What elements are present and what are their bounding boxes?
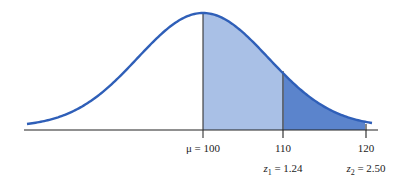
tick-label-110: 110 [275,142,291,154]
z1-label: z1 = 1.24 [263,162,302,177]
z2-value: = 2.50 [355,162,386,174]
tick-label-120: 120 [358,142,375,154]
shaded-region-110-120 [284,74,365,130]
z2-label: z2 = 2.50 [346,162,385,177]
tick-label-mean: μ = 100 [186,142,220,154]
shaded-region-100-110 [203,13,284,130]
z1-value: = 1.24 [272,162,303,174]
